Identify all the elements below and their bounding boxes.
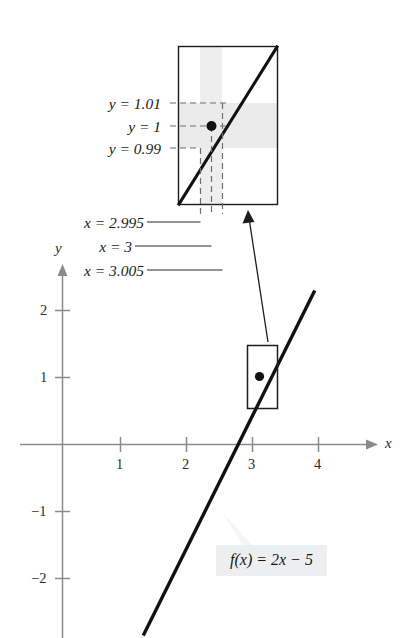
detail-point-marker [207,121,217,131]
detail-label-y-1: y = 1 [128,119,161,135]
x-tick-label-4: 4 [314,457,321,472]
function-formula-label: f(x) = 2x − 5 [216,545,327,576]
y-axis-arrowhead [58,264,68,276]
detail-label-x-3: x = 3 [99,239,132,255]
y-tick-label-2: 2 [40,303,47,318]
main-axes-group [20,264,378,638]
magnifier-arrow-group [243,210,269,342]
detail-label-x-2-995: x = 2.995 [84,215,144,231]
magnifier-arrow-shaft [249,218,268,342]
calculus-limit-figure [0,0,410,638]
x-axis-label: x [385,436,392,451]
x-tick-label-2: 2 [182,457,189,472]
y-tick-label-1: 1 [40,370,47,385]
y-tick-label-minus-1: −1 [31,504,46,519]
detail-label-x-3-005: x = 3.005 [84,263,144,279]
x-tick-label-3: 3 [248,457,255,472]
figure-page: y = 1.01 y = 1 y = 0.99 x = 2.995 x = 3 … [0,0,410,638]
detail-label-y-0-99: y = 0.99 [109,141,161,157]
y-tick-label-minus-2: −2 [31,571,46,586]
detail-box-group [135,47,278,271]
y-axis-label: y [55,241,62,256]
x-axis-arrowhead [366,440,378,450]
main-function-line [144,292,314,634]
main-point-marker [255,372,264,381]
magnifier-arrow-head [243,210,255,224]
detail-label-y-1-01: y = 1.01 [109,96,161,112]
x-tick-label-1: 1 [116,457,123,472]
